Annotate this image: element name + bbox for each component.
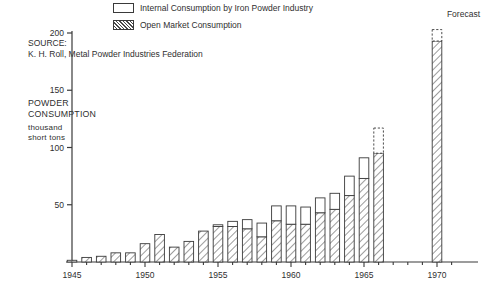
bar-segment-open-market <box>301 224 311 262</box>
bar-segment-open-market <box>242 229 252 262</box>
bar-segment-open-market <box>228 227 238 262</box>
bar-segment-internal <box>213 225 223 227</box>
x-axis-tick-label: 1955 <box>209 270 228 280</box>
bar-segment-open-market <box>169 247 179 262</box>
bar-segment-open-market <box>140 244 150 262</box>
x-axis-tick-label: 1960 <box>282 270 301 280</box>
bar-segment-internal <box>359 158 369 179</box>
bar-segment-open-market <box>315 213 325 262</box>
bar-segment-open-market <box>345 196 355 262</box>
bar-segment-open-market <box>199 231 209 262</box>
bar-segment-open-market <box>111 253 121 262</box>
bar-segment-open-market <box>272 221 282 262</box>
bar-segment-open-market <box>359 178 369 262</box>
chart-bars <box>67 30 442 262</box>
bar-segment-open-market <box>432 41 442 262</box>
bar-segment-internal <box>257 223 267 237</box>
bar-segment-open-market <box>155 235 165 262</box>
bar-segment-internal <box>315 198 325 213</box>
bar-segment-internal <box>432 30 442 41</box>
bar-segment-internal <box>228 221 238 226</box>
bar-segment-open-market <box>257 237 267 262</box>
bar-segment-internal <box>242 220 252 229</box>
bar-segment-internal <box>330 193 340 209</box>
bar-segment-open-market <box>67 260 77 262</box>
bar-segment-internal <box>272 206 282 221</box>
x-axis-tick-label: 1970 <box>428 270 447 280</box>
x-axis-tick-label: 1945 <box>63 270 82 280</box>
y-axis-tick-label: 50 <box>55 200 65 210</box>
chart-plot-area: 50100150200194519501955196019651970 <box>0 0 483 300</box>
x-axis-tick-label: 1965 <box>355 270 374 280</box>
x-axis-tick-label: 1950 <box>136 270 155 280</box>
bar-segment-internal <box>301 207 311 224</box>
bar-segment-open-market <box>213 227 223 262</box>
bar-segment-open-market <box>96 256 106 262</box>
y-axis-tick-label: 200 <box>50 28 64 38</box>
bar-segment-open-market <box>330 209 340 262</box>
bar-segment-open-market <box>184 241 194 262</box>
bar-segment-open-market <box>374 153 384 262</box>
bar-segment-internal <box>374 128 384 153</box>
bar-segment-open-market <box>126 253 136 262</box>
bar-segment-open-market <box>82 257 92 262</box>
y-axis-tick-label: 150 <box>50 85 64 95</box>
bar-segment-internal <box>345 176 355 195</box>
powder-consumption-chart: Internal Consumption by Iron Powder Indu… <box>0 0 483 300</box>
bar-segment-internal <box>286 206 296 224</box>
bar-segment-open-market <box>286 224 296 262</box>
y-axis-tick-label: 100 <box>50 143 64 153</box>
